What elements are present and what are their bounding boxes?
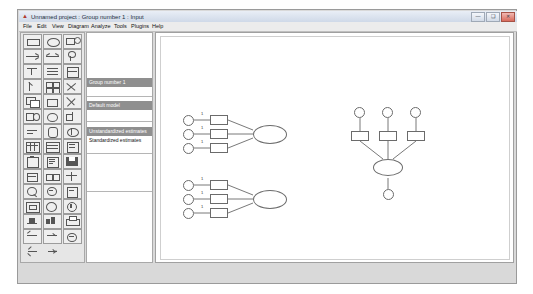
error-circle-10[interactable] bbox=[383, 189, 394, 200]
observed-rect-3[interactable] bbox=[210, 143, 228, 153]
diagram-canvas[interactable]: 1 1 1 1 1 1 bbox=[160, 36, 510, 260]
tool-drag-properties[interactable] bbox=[42, 169, 62, 184]
tool-ellipse[interactable] bbox=[42, 34, 62, 49]
minimize-button[interactable]: — bbox=[471, 12, 485, 22]
latent-ellipse-right[interactable] bbox=[373, 159, 403, 176]
tool-print[interactable] bbox=[62, 214, 82, 229]
error-circle-1[interactable] bbox=[183, 115, 194, 126]
window-controls: — ❑ ✕ bbox=[471, 12, 515, 22]
tool-list-variables[interactable] bbox=[42, 64, 62, 79]
group-list-header: Group number 1 bbox=[87, 78, 152, 87]
menu-item-tools[interactable]: Tools bbox=[114, 22, 127, 31]
observed-rect-5[interactable] bbox=[210, 194, 228, 204]
tool-bayesian[interactable] bbox=[22, 214, 42, 229]
menu-item-analyze[interactable]: Analyze bbox=[91, 22, 111, 31]
tool-change-shape[interactable] bbox=[22, 109, 42, 124]
observed-rect-9[interactable] bbox=[407, 131, 425, 141]
tool-loupe[interactable] bbox=[62, 199, 82, 214]
tool-move-parameter[interactable] bbox=[22, 124, 42, 139]
menu-item-help[interactable]: Help bbox=[152, 22, 163, 31]
latent-ellipse-top[interactable] bbox=[253, 125, 287, 144]
menu-bar: File Edit View Diagram Analyze Tools Plu… bbox=[19, 22, 517, 32]
tool-zoom-page[interactable] bbox=[62, 184, 82, 199]
error-circle-9[interactable] bbox=[410, 107, 421, 118]
list-separator-1 bbox=[87, 96, 152, 97]
list-separator-4 bbox=[87, 191, 152, 192]
tool-duplicate[interactable] bbox=[22, 94, 42, 109]
diagram-canvas-container[interactable]: 1 1 1 1 1 1 bbox=[155, 32, 514, 263]
model-lists-panel: Group number 1 Default model Unstandardi… bbox=[86, 32, 153, 263]
tool-forward[interactable] bbox=[42, 244, 62, 259]
tool-error-variable[interactable] bbox=[62, 49, 82, 64]
observed-rect-6[interactable] bbox=[210, 208, 228, 218]
error-circle-2[interactable] bbox=[183, 129, 194, 140]
tool-path[interactable] bbox=[22, 49, 42, 64]
list-separator-3 bbox=[87, 153, 152, 154]
tool-back[interactable] bbox=[22, 244, 42, 259]
tool-reflect[interactable] bbox=[62, 109, 82, 124]
tool-title[interactable] bbox=[22, 64, 42, 79]
tool-blank[interactable] bbox=[62, 244, 82, 259]
observed-rect-1[interactable] bbox=[210, 115, 228, 125]
tool-fit-to-page[interactable] bbox=[22, 199, 42, 214]
error-circle-6[interactable] bbox=[183, 208, 194, 219]
latent-ellipse-bottom[interactable] bbox=[253, 190, 287, 209]
tool-text-output[interactable] bbox=[42, 154, 62, 169]
tool-magnify[interactable] bbox=[42, 199, 62, 214]
tool-move[interactable] bbox=[42, 94, 62, 109]
menu-item-plugins[interactable]: Plugins bbox=[131, 22, 149, 31]
tool-erase[interactable] bbox=[62, 94, 82, 109]
error-circle-3[interactable] bbox=[183, 143, 194, 154]
path-label-6: 1 bbox=[201, 204, 203, 209]
error-circle-7[interactable] bbox=[354, 107, 365, 118]
tool-covariance[interactable] bbox=[42, 49, 62, 64]
tool-variables-in-model[interactable] bbox=[62, 64, 82, 79]
tool-touch-up[interactable] bbox=[62, 124, 82, 139]
tool-object-properties[interactable] bbox=[22, 169, 42, 184]
observed-rect-2[interactable] bbox=[210, 129, 228, 139]
tool-observed-variable[interactable] bbox=[62, 34, 82, 49]
error-circle-4[interactable] bbox=[183, 180, 194, 191]
toolbox-panel bbox=[20, 32, 85, 263]
estimates-item-standardized[interactable]: Standardized estimates bbox=[87, 136, 152, 144]
tool-deselect-all[interactable] bbox=[62, 79, 82, 94]
menu-item-diagram[interactable]: Diagram bbox=[68, 22, 89, 31]
tool-rotate[interactable] bbox=[42, 109, 62, 124]
tool-multiple-group[interactable] bbox=[42, 214, 62, 229]
path-label-4: 1 bbox=[201, 176, 203, 181]
menu-item-view[interactable]: View bbox=[52, 22, 64, 31]
observed-rect-7[interactable] bbox=[351, 131, 369, 141]
menu-item-file[interactable]: File bbox=[23, 22, 32, 31]
tool-specification-search[interactable] bbox=[62, 229, 82, 244]
error-circle-5[interactable] bbox=[183, 194, 194, 205]
path-label-1: 1 bbox=[201, 111, 203, 116]
tool-save[interactable] bbox=[62, 154, 82, 169]
error-circle-8[interactable] bbox=[382, 107, 393, 118]
tool-undo[interactable] bbox=[22, 229, 42, 244]
tool-select-all[interactable] bbox=[42, 79, 62, 94]
tool-data-files[interactable] bbox=[22, 139, 42, 154]
close-button[interactable]: ✕ bbox=[501, 12, 515, 22]
model-list-header: Default model bbox=[87, 101, 152, 110]
tool-calculate-estimates[interactable] bbox=[62, 139, 82, 154]
tool-rectangle[interactable] bbox=[22, 34, 42, 49]
status-bar bbox=[20, 263, 516, 282]
tool-select-one[interactable] bbox=[22, 79, 42, 94]
observed-rect-4[interactable] bbox=[210, 180, 228, 190]
amos-graphics-window: ▲ Unnamed project : Group number 1 : Inp… bbox=[17, 9, 517, 284]
tool-zoom-out[interactable] bbox=[42, 184, 62, 199]
list-separator-2 bbox=[87, 121, 152, 122]
tool-redo[interactable] bbox=[42, 229, 62, 244]
observed-rect-8[interactable] bbox=[379, 131, 397, 141]
tool-copy-clipboard[interactable] bbox=[22, 154, 42, 169]
path-label-3: 1 bbox=[201, 139, 203, 144]
estimates-list-header: Unstandardized estimates bbox=[87, 127, 152, 136]
tool-analysis-properties[interactable] bbox=[42, 139, 62, 154]
tool-preserve-symmetry[interactable] bbox=[62, 169, 82, 184]
tool-scroll[interactable] bbox=[42, 124, 62, 139]
amos-app-icon: ▲ bbox=[22, 13, 29, 20]
toolbox-grid bbox=[22, 34, 82, 259]
tool-zoom-in[interactable] bbox=[22, 184, 42, 199]
menu-item-edit[interactable]: Edit bbox=[37, 22, 46, 31]
maximize-button[interactable]: ❑ bbox=[486, 12, 500, 22]
